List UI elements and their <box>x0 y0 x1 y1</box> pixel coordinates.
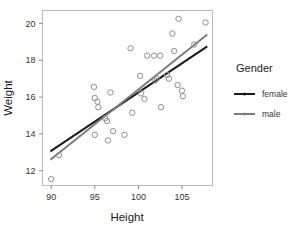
x-tick-label: 95 <box>90 192 100 202</box>
y-tick-label: 12 <box>25 166 35 176</box>
y-tick-label: 16 <box>25 92 35 102</box>
x-tick-label: 105 <box>174 192 189 202</box>
y-axis-title: Weight <box>2 79 14 115</box>
legend-marker-female <box>243 92 246 95</box>
y-tick-label: 18 <box>25 55 35 65</box>
chart-canvas: 1214161820 9095100105 Height Weight Gend… <box>0 0 299 228</box>
legend-label-male: male <box>262 109 281 119</box>
legend-label-female: female <box>262 89 288 99</box>
x-tick-label: 100 <box>131 192 146 202</box>
legend-title: Gender <box>236 62 273 74</box>
y-tick-label: 14 <box>25 129 35 139</box>
y-tick-label: 20 <box>25 19 35 29</box>
legend-marker-male <box>243 112 246 115</box>
x-axis-title: Height <box>110 211 144 223</box>
scatter-plot-figure: 1214161820 9095100105 Height Weight Gend… <box>0 0 299 228</box>
x-tick-label: 90 <box>46 192 56 202</box>
